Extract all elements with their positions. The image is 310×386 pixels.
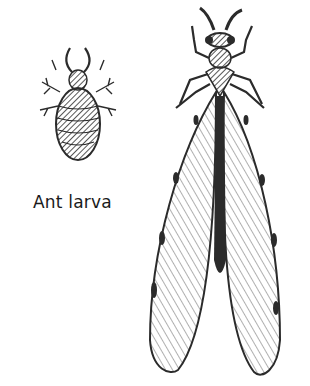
ant-larva-drawing	[40, 48, 116, 160]
caption-label: Ant larva	[33, 192, 112, 212]
adult-antlion-drawing	[150, 8, 280, 375]
illustration: Ant larva	[0, 0, 310, 386]
